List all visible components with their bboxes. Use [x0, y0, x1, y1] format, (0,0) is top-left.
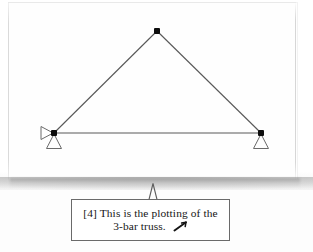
support-left-pin	[41, 127, 62, 149]
diagonal-arrow-icon	[173, 221, 188, 232]
caption-line-1: [4] This is the plotting of the	[83, 207, 217, 220]
caption-text-block: [4] This is the plotting of the 3-bar tr…	[72, 200, 229, 240]
node-apex-marker	[154, 28, 160, 34]
support-right-roller	[254, 134, 269, 149]
caption-line-2-row: 3-bar truss.	[113, 220, 188, 233]
truss-diagram	[0, 0, 313, 200]
caption-callout-box: [4] This is the plotting of the 3-bar tr…	[71, 199, 230, 241]
figure-page: [4] This is the plotting of the 3-bar tr…	[0, 0, 313, 252]
node-right-marker	[258, 130, 264, 136]
caption-line-2: 3-bar truss.	[113, 220, 166, 233]
node-left-marker	[51, 130, 57, 136]
member-right-diagonal	[157, 31, 261, 133]
member-left-diagonal	[54, 31, 157, 133]
